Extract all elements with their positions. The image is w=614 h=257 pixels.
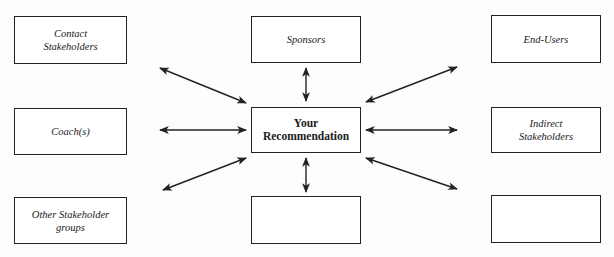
your-recommendation-box: Your Recommendation [251,107,361,153]
indirect-stakeholders-box: Indirect Stakeholders [491,107,601,153]
contact-stakeholders-box: Contact Stakeholders [14,16,127,64]
blank-bottom-center-box [251,196,361,244]
stakeholder-diagram: Your Recommendation Contact Stakeholders… [0,0,614,257]
double-arrow-blank-bottom-right [366,158,457,189]
coach-box: Coach(s) [14,108,127,155]
your-recommendation-label: Your Recommendation [263,117,349,143]
blank-bottom-right-box [491,195,601,243]
double-arrow-other [163,158,246,190]
double-arrow-contact [160,68,246,103]
end-users-box: End-Users [491,15,601,63]
coach-label: Coach(s) [51,125,90,138]
contact-stakeholders-label: Contact Stakeholders [43,27,97,53]
sponsors-box: Sponsors [251,16,361,63]
other-stakeholder-groups-label: Other Stakeholder groups [32,208,109,234]
double-arrow-end-users [366,67,457,102]
other-stakeholder-groups-box: Other Stakeholder groups [14,197,127,244]
end-users-label: End-Users [524,33,569,46]
indirect-stakeholders-label: Indirect Stakeholders [519,117,573,143]
sponsors-label: Sponsors [287,33,326,46]
